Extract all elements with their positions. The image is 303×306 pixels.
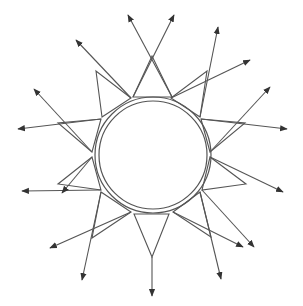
sun-circle-group [95, 97, 211, 213]
ray-arrow [210, 157, 283, 192]
ray-triangle-left-lower [58, 157, 101, 190]
ray-arrow [22, 190, 101, 191]
triangles-group [58, 56, 246, 257]
ray-arrow [173, 212, 243, 247]
ray-arrow [76, 40, 131, 98]
ray-arrow [202, 190, 254, 247]
outer-ring [95, 97, 211, 213]
sun-diagram-canvas [0, 0, 303, 306]
ray-arrow [210, 87, 270, 152]
sun-diagram: Sun diagram with triangular rays and out… [0, 0, 303, 306]
ray-triangle-top [133, 56, 172, 97]
ray-triangle-bottom [134, 214, 169, 257]
ray-arrow [200, 27, 218, 117]
sun-core [99, 101, 207, 209]
ray-triangle-upper-left [96, 71, 131, 117]
